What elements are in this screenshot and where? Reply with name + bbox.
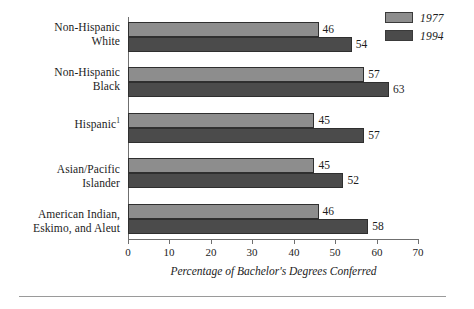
x-tick-40 (294, 239, 295, 244)
x-tick-10 (169, 239, 170, 244)
x-axis-title: Percentage of Bachelor's Degrees Conferr… (128, 265, 419, 277)
x-tick-label-40: 40 (289, 246, 300, 258)
legend-label-1977: 1977 (420, 12, 444, 24)
x-tick-30 (252, 239, 253, 244)
category-label-line1: American Indian, (33, 208, 120, 222)
bar-row-1977: 46 (128, 22, 418, 37)
bar-1977[interactable] (128, 204, 319, 219)
category-label-line1: Non-Hispanic (54, 21, 120, 35)
x-tick-50 (335, 239, 336, 244)
bar-value-1994: 54 (352, 37, 368, 52)
bar-row-1977: 45 (128, 113, 418, 128)
x-tick-20 (211, 239, 212, 244)
bar-value-1977: 57 (364, 67, 380, 82)
bar-1994[interactable] (128, 219, 368, 234)
bar-value-1977: 46 (319, 22, 335, 37)
category-label-line2: Eskimo, and Aleut (33, 222, 120, 236)
bar-row-1977: 46 (128, 204, 418, 219)
bar-1994[interactable] (128, 173, 343, 188)
category-label-non-hispanic-white: Non-Hispanic White (54, 21, 120, 48)
bar-value-1994: 63 (389, 82, 405, 97)
legend-label-1994: 1994 (420, 30, 444, 42)
bar-row-1994: 52 (128, 173, 418, 188)
bar-row-1994: 57 (128, 128, 418, 143)
category-label-line2: Black (54, 80, 120, 94)
bar-group-non-hispanic-black: 57 63 (128, 67, 418, 97)
category-label-line2: White (54, 35, 120, 49)
bar-value-1977: 45 (314, 158, 330, 173)
bar-value-1994: 52 (343, 173, 359, 188)
x-axis-line (128, 239, 419, 240)
category-label-asian-pacific-islander: Asian/Pacific Islander (57, 163, 120, 190)
x-tick-0 (128, 239, 129, 244)
x-tick-label-50: 50 (330, 246, 341, 258)
bar-chart-figure: 1977 1994 Non-Hispanic White Non-Hispani… (0, 0, 474, 309)
bar-row-1994: 54 (128, 37, 418, 52)
bar-group-non-hispanic-white: 46 54 (128, 22, 418, 52)
bar-group-hispanic: 45 57 (128, 113, 418, 143)
bar-group-asian-pacific-islander: 45 52 (128, 158, 418, 188)
x-tick-label-60: 60 (372, 246, 383, 258)
bar-1977[interactable] (128, 22, 319, 37)
x-tick-label-0: 0 (125, 246, 131, 258)
footnote-marker: 1 (116, 116, 120, 125)
bar-row-1977: 57 (128, 67, 418, 82)
category-label-line1: Asian/Pacific (57, 163, 120, 177)
bar-1977[interactable] (128, 158, 314, 173)
bar-row-1977: 45 (128, 158, 418, 173)
category-label-hispanic: Hispanic1 (74, 118, 120, 132)
category-label-american-indian-eskimo-aleut: American Indian, Eskimo, and Aleut (33, 208, 120, 235)
category-label-line1: Hispanic1 (74, 118, 120, 132)
bar-1994[interactable] (128, 82, 389, 97)
bar-value-1977: 46 (319, 204, 335, 219)
x-tick-label-20: 20 (206, 246, 217, 258)
x-tick-60 (377, 239, 378, 244)
x-tick-label-70: 70 (413, 246, 424, 258)
plot-area: 0 10 20 30 40 50 60 70 46 54 57 (128, 17, 418, 239)
bar-row-1994: 63 (128, 82, 418, 97)
bar-value-1994: 57 (364, 128, 380, 143)
x-tick-label-10: 10 (164, 246, 175, 258)
category-label-text: Hispanic (74, 118, 116, 130)
bar-1977[interactable] (128, 67, 364, 82)
bar-group-american-indian-eskimo-aleut: 46 58 (128, 204, 418, 234)
category-label-non-hispanic-black: Non-Hispanic Black (54, 66, 120, 93)
x-tick-70 (418, 239, 419, 244)
bar-1994[interactable] (128, 37, 352, 52)
bar-1977[interactable] (128, 113, 314, 128)
bar-value-1994: 58 (368, 219, 384, 234)
x-tick-label-30: 30 (247, 246, 258, 258)
bar-value-1977: 45 (314, 113, 330, 128)
category-label-line1: Non-Hispanic (54, 66, 120, 80)
category-label-line2: Islander (57, 177, 120, 191)
bar-row-1994: 58 (128, 219, 418, 234)
bar-1994[interactable] (128, 128, 364, 143)
footer-divider (19, 296, 446, 297)
